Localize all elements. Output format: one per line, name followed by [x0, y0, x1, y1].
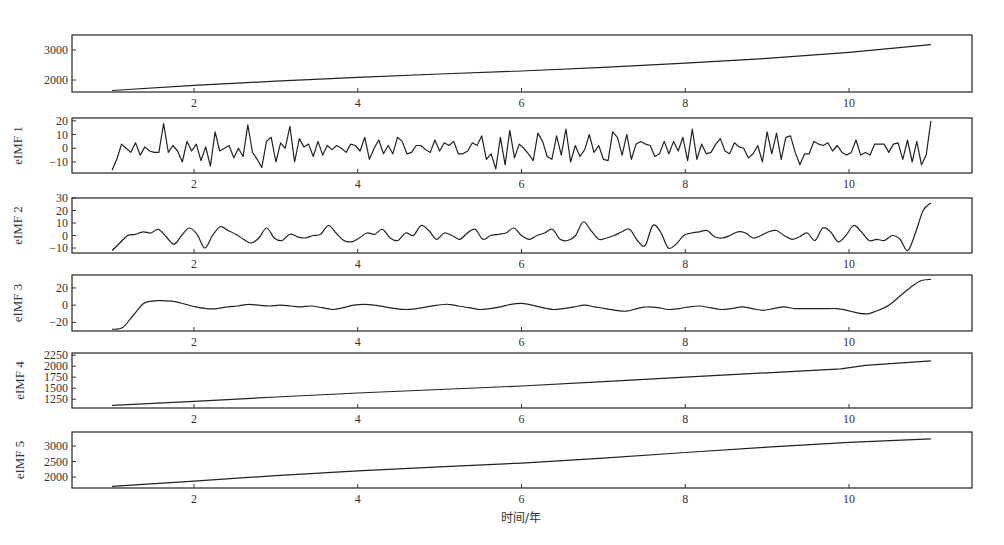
subplot-stack: 24681020003000246810−1001020eIMF 1246810… — [10, 35, 972, 506]
y-tick-label: 0 — [62, 229, 68, 243]
x-tick-label: 6 — [519, 257, 525, 271]
y-tick-label: 30 — [56, 191, 68, 205]
series-line — [112, 361, 931, 406]
y-tick-label: 2500 — [44, 455, 68, 469]
y-tick-label: 2250 — [44, 348, 68, 362]
x-tick-label: 10 — [843, 257, 855, 271]
x-tick-label: 6 — [519, 96, 525, 110]
x-tick-label: 6 — [519, 177, 525, 191]
x-tick-label: 4 — [355, 257, 361, 271]
x-tick-label: 6 — [519, 412, 525, 426]
x-tick-label: 10 — [843, 492, 855, 506]
subplot-eimf-3: 246810−20020eIMF 3 — [10, 275, 972, 349]
axes-frame — [72, 432, 972, 488]
series-line — [112, 203, 931, 251]
x-tick-label: 4 — [355, 177, 361, 191]
y-tick-label: 0 — [62, 298, 68, 312]
x-tick-label: 2 — [191, 492, 197, 506]
x-tick-label: 8 — [682, 335, 688, 349]
axes-frame — [72, 198, 972, 253]
y-axis-label: eIMF 2 — [10, 206, 25, 245]
y-tick-label: 10 — [56, 216, 68, 230]
x-tick-label: 4 — [355, 335, 361, 349]
x-tick-label: 2 — [191, 257, 197, 271]
x-tick-label: 2 — [191, 177, 197, 191]
y-tick-label: −20 — [49, 315, 68, 329]
x-tick-label: 4 — [355, 412, 361, 426]
x-tick-label: 6 — [519, 335, 525, 349]
x-tick-label: 8 — [682, 177, 688, 191]
y-tick-label: 3000 — [44, 439, 68, 453]
emd-decomposition-figure: 24681020003000246810−1001020eIMF 1246810… — [0, 0, 1004, 545]
x-tick-label: 10 — [843, 335, 855, 349]
x-tick-label: 8 — [682, 492, 688, 506]
y-tick-label: 20 — [56, 114, 68, 128]
y-tick-label: 10 — [56, 128, 68, 142]
x-tick-label: 4 — [355, 492, 361, 506]
x-tick-label: 4 — [355, 96, 361, 110]
y-tick-label: 20 — [56, 204, 68, 218]
y-tick-label: 2000 — [44, 470, 68, 484]
x-tick-label: 10 — [843, 177, 855, 191]
y-axis-label: eIMF 1 — [10, 126, 25, 165]
series-line — [112, 279, 931, 329]
x-tick-label: 2 — [191, 96, 197, 110]
y-tick-label: 0 — [62, 141, 68, 155]
x-tick-label: 2 — [191, 335, 197, 349]
axes-frame — [72, 35, 972, 92]
y-axis-label: eIMF 3 — [10, 284, 25, 323]
y-axis-label: eIMF 5 — [12, 441, 27, 480]
series-line — [112, 45, 931, 91]
y-tick-label: −10 — [49, 241, 68, 255]
subplot-eimf-4: 24681012501500175020002250eIMF 4 — [12, 348, 972, 426]
series-line — [112, 121, 931, 171]
y-tick-label: −10 — [49, 155, 68, 169]
x-tick-label: 10 — [843, 96, 855, 110]
subplot-eimf-2: 246810−100102030eIMF 2 — [10, 191, 972, 271]
y-tick-label: 2000 — [44, 73, 68, 87]
x-axis-label: 时间/年 — [501, 511, 541, 525]
subplot-original: 24681020003000 — [44, 35, 972, 110]
y-tick-label: 3000 — [44, 43, 68, 57]
x-tick-label: 6 — [519, 492, 525, 506]
x-tick-label: 8 — [682, 257, 688, 271]
y-axis-label: eIMF 4 — [12, 361, 27, 400]
axes-frame — [72, 353, 972, 408]
x-tick-label: 8 — [682, 96, 688, 110]
subplot-eimf-5: 246810200025003000eIMF 5 — [12, 432, 972, 506]
y-tick-label: 20 — [56, 281, 68, 295]
x-tick-label: 10 — [843, 412, 855, 426]
x-tick-label: 8 — [682, 412, 688, 426]
subplot-eimf-1: 246810−1001020eIMF 1 — [10, 114, 972, 191]
series-line — [112, 439, 931, 487]
x-tick-label: 2 — [191, 412, 197, 426]
